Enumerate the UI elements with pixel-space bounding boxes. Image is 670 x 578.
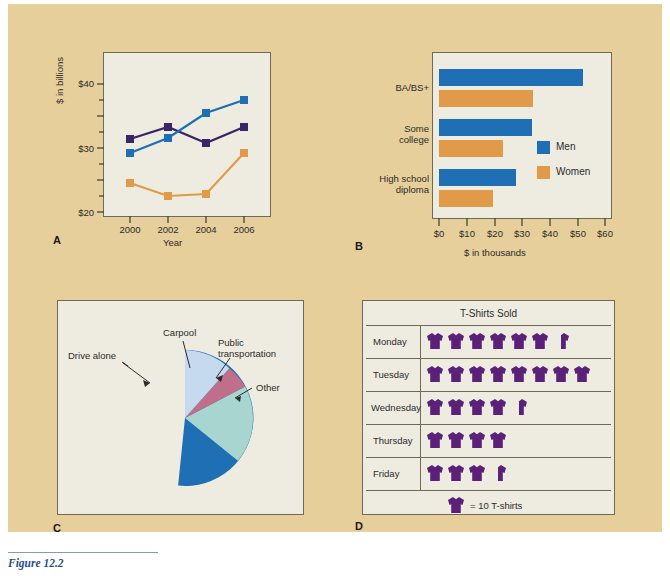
- panel-b-category-some-college: Some college: [345, 123, 429, 145]
- panel-b-category-high-school-line1: High school: [322, 173, 429, 184]
- caption-rule: [8, 552, 158, 553]
- panel-letter-a: A: [53, 234, 61, 246]
- panel-a-xtick-2002: 2002: [151, 224, 185, 235]
- figure-caption: Figure 12.2: [8, 557, 64, 569]
- pie-label-public-transportation: Public transportation: [218, 337, 298, 359]
- row-label-tuesday: Tuesday: [373, 369, 409, 380]
- panel-letter-c: C: [53, 522, 61, 534]
- pie-label-drive-alone: Drive alone: [68, 350, 116, 361]
- panel-a-xtick-2000: 2000: [113, 224, 147, 235]
- pie-label-public-transportation-line1: Public: [218, 337, 298, 348]
- grid-line-3: [366, 424, 611, 425]
- panel-a-ytick-40: $40: [62, 78, 94, 89]
- row-label-friday: Friday: [373, 468, 399, 479]
- pie-label-carpool: Carpool: [163, 327, 196, 338]
- panel-d-key-text: = 10 T-shirts: [470, 500, 522, 511]
- bar-women-some-college: [439, 140, 503, 157]
- bar-men-some-college: [439, 119, 532, 136]
- panel-letter-d: D: [355, 520, 363, 532]
- pie-label-public-transportation-line2: transportation: [218, 348, 298, 359]
- panel-d-title: T-Shirts Sold: [362, 308, 615, 319]
- panel-a-ytick-20: $20: [62, 207, 94, 218]
- grid-line-title: [366, 325, 611, 326]
- panel-a-x-axis-label: Year: [163, 237, 182, 248]
- legend-label-women: Women: [556, 166, 590, 177]
- panel-b-xtick-50: $50: [565, 228, 591, 239]
- panel-a-xtick-2004: 2004: [189, 224, 223, 235]
- panel-a-xtick-2006: 2006: [227, 224, 261, 235]
- panel-b-category-high-school: High school diploma: [322, 173, 429, 195]
- legend-swatch-men: [537, 141, 550, 154]
- panel-b-x-axis-label: $ in thousands: [464, 247, 526, 258]
- panel-b-xtick-10: $10: [454, 228, 480, 239]
- panel-a-ytick-30: $30: [62, 143, 94, 154]
- grid-line-4: [366, 457, 611, 458]
- grid-line-1: [366, 358, 611, 359]
- panel-b-xtick-30: $30: [509, 228, 535, 239]
- legend-label-men: Men: [556, 141, 575, 152]
- panel-b-xtick-40: $40: [537, 228, 563, 239]
- bar-men-ba-bs: [439, 69, 583, 86]
- legend-swatch-women: [537, 166, 550, 179]
- row-label-wednesday: Wednesday: [371, 402, 421, 413]
- panel-a-line-chart: [103, 52, 271, 217]
- panel-b-xtick-0: $0: [426, 228, 452, 239]
- pie-label-other: Other: [256, 382, 280, 393]
- panel-b-category-high-school-line2: diploma: [322, 184, 429, 195]
- panel-b-category-ba-bs: BA/BS+: [345, 82, 429, 93]
- row-label-thursday: Thursday: [373, 435, 413, 446]
- panel-b-category-some-college-line2: college: [345, 134, 429, 145]
- grid-line-2: [366, 391, 611, 392]
- grid-line-5: [366, 490, 611, 491]
- panel-b-xtick-20: $20: [482, 228, 508, 239]
- panel-letter-b: B: [355, 240, 363, 252]
- row-label-monday: Monday: [373, 336, 407, 347]
- bar-women-ba-bs: [439, 90, 533, 107]
- panel-b-xtick-60: $60: [592, 228, 618, 239]
- figure-page: $ in billions $40 $30 $20 2000 2002 2004…: [0, 0, 670, 578]
- bar-men-high-school: [439, 169, 516, 186]
- panel-b-category-some-college-line1: Some: [345, 123, 429, 134]
- bar-women-high-school: [439, 190, 493, 207]
